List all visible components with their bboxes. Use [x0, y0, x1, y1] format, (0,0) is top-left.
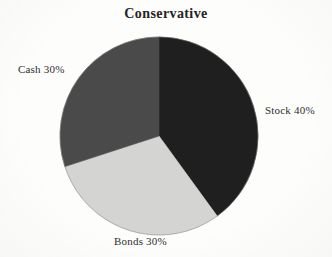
chart-page: Conservative Cash 30% Stock 40% Bonds 30… — [0, 0, 332, 257]
pie-chart-svg — [0, 0, 332, 257]
pie-label-bonds: Bonds 30% — [114, 235, 167, 247]
pie-label-cash: Cash 30% — [18, 63, 65, 75]
pie-label-stock: Stock 40% — [265, 104, 315, 116]
pie-chart — [0, 0, 332, 257]
pie-slices — [60, 37, 258, 235]
